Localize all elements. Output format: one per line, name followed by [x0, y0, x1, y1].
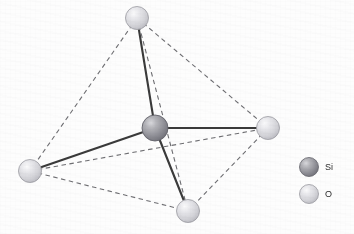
si-o-bonds: [30, 18, 268, 211]
atom-o-bottom[interactable]: [177, 200, 200, 223]
legend-o-swatch: [300, 185, 319, 204]
edge-right-bottom: [188, 128, 268, 211]
edge-top-bottom: [137, 18, 188, 211]
legend-o-label: O: [325, 189, 332, 199]
sio4-tetrahedron-diagram: Si O: [0, 0, 354, 234]
edge-top-left: [30, 18, 137, 171]
bond-si-o-top: [137, 18, 155, 128]
legend-si-label: Si: [325, 162, 333, 172]
legend: Si O: [300, 158, 334, 204]
bond-si-o-left: [30, 128, 155, 171]
silicon-atom-group: [142, 115, 168, 141]
edge-top-right: [137, 18, 268, 128]
legend-si-swatch: [300, 158, 319, 177]
atom-o-right[interactable]: [257, 117, 280, 140]
oxygen-atoms: [19, 7, 280, 223]
edge-left-bottom: [30, 171, 188, 211]
tetrahedron-edges: [30, 18, 268, 211]
figure-root: Si O: [0, 0, 354, 234]
atom-si-center[interactable]: [142, 115, 168, 141]
atom-o-left[interactable]: [19, 160, 42, 183]
atom-o-top[interactable]: [126, 7, 149, 30]
